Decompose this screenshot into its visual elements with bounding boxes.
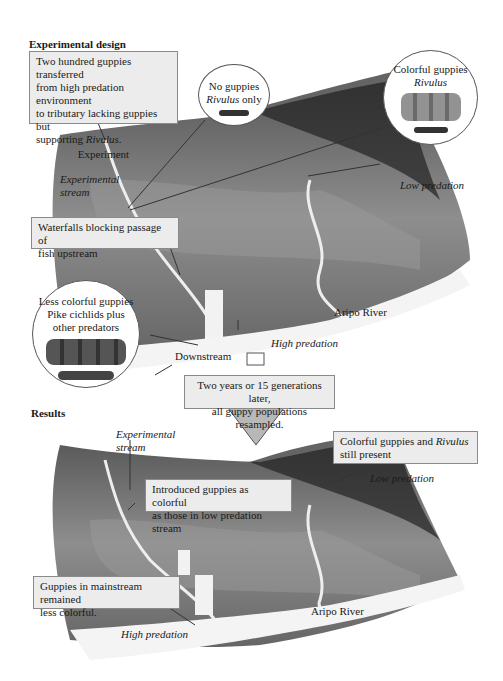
transfer-text-line: Two hundred guppies transferred — [36, 55, 171, 81]
aripo-river-label: Aripo River — [334, 306, 387, 318]
box-text: Waterfalls blocking passage of — [38, 221, 172, 247]
waterfall-box: Waterfalls blocking passage of fish upst… — [31, 217, 179, 249]
experimental-stream-label: Experimental stream — [60, 173, 119, 199]
rivulus-fish-icon — [219, 110, 249, 116]
experiment-label: Experiment — [36, 146, 171, 161]
no-guppies-circle: No guppies Rivulus only — [198, 64, 270, 126]
circle-text: only — [239, 93, 261, 105]
label-text: Experimental — [116, 428, 175, 441]
circle-text: No guppies — [199, 80, 269, 93]
low-predation-label: Low predation — [400, 179, 464, 191]
pike-cichlid-icon — [58, 371, 114, 380]
guppy-school-icon — [46, 339, 126, 365]
species-name: Rivulus — [436, 435, 469, 447]
high-predation-label: High predation — [121, 628, 188, 640]
box-text: as those in low predation stream — [152, 509, 285, 535]
experimental-design-heading: Experimental design — [29, 38, 126, 50]
text: . — [119, 133, 122, 145]
circle-text: Less colorful guppies — [33, 295, 139, 308]
box-text: Guppies in mainstream remained — [40, 580, 173, 606]
transfer-text-line: supporting Rivulus. — [36, 133, 171, 146]
introduced-guppies-box: Introduced guppies as colorful as those … — [145, 479, 292, 512]
transfer-box: Two hundred guppies transferred from hig… — [29, 51, 178, 124]
colorful-guppies-circle: Colorful guppies Rivulus — [383, 50, 478, 145]
results-heading: Results — [31, 407, 65, 419]
text: supporting — [36, 133, 86, 145]
box-text: all guppy populations resampled. — [191, 405, 328, 431]
less-colorful-circle: Less colorful guppies Pike cichlids plus… — [32, 280, 140, 388]
circle-text: Pike cichlids plus — [33, 308, 139, 321]
label-text: Experimental — [60, 173, 119, 186]
low-predation-label: Low predation — [370, 472, 434, 484]
box-text: Two years or 15 generations later, — [191, 379, 328, 405]
transition-box: Two years or 15 generations later, all g… — [184, 375, 335, 409]
high-predation-label: High predation — [271, 337, 338, 349]
label-text: stream — [116, 441, 175, 454]
colorful-rivulus-box: Colorful guppies and Rivulus still prese… — [333, 431, 478, 464]
aripo-river-label: Aripo River — [311, 605, 364, 617]
box-text: less colorful. — [40, 606, 173, 619]
rivulus-fish-icon — [414, 127, 448, 133]
box-text: Colorful guppies and — [340, 435, 436, 447]
box-text: still present — [340, 448, 471, 461]
mainstream-box: Guppies in mainstream remained less colo… — [33, 576, 180, 609]
guppy-school-icon — [401, 93, 461, 121]
bottom-landscape — [53, 435, 465, 660]
transfer-text-line: from high predation environment — [36, 81, 171, 107]
label-text: stream — [60, 186, 119, 199]
species-name: Rivulus — [206, 93, 239, 105]
species-name: Rivulus — [86, 133, 119, 145]
transfer-text-line: to tributary lacking guppies but — [36, 107, 171, 133]
circle-text: other predators — [33, 321, 139, 334]
box-text: fish upstream — [38, 247, 172, 260]
downstream-label: Downstream — [175, 350, 231, 362]
box-text: Introduced guppies as colorful — [152, 483, 285, 509]
circle-text: Colorful guppies — [384, 63, 477, 76]
species-name: Rivulus — [384, 76, 477, 89]
experimental-stream-label: Experimental stream — [116, 428, 175, 454]
